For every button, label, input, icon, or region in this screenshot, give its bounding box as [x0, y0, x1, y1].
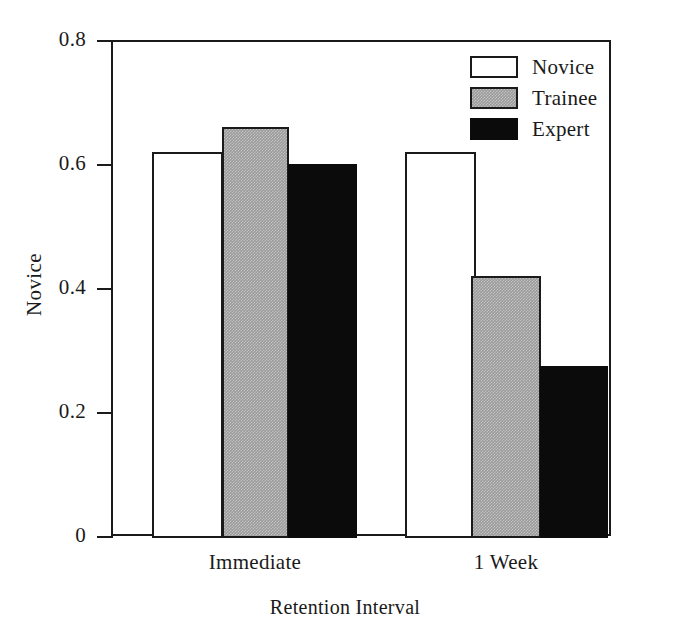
y-axis-label: Novice: [22, 215, 47, 355]
legend-item-trainee: Trainee: [470, 83, 620, 113]
y-tick-label-0.8: 0.8: [22, 29, 86, 50]
y-tick-label-0.6: 0.6: [22, 153, 86, 174]
gray-square-icon: [470, 87, 518, 109]
y-tick-mark-0.6: [97, 164, 113, 166]
x-tick-label-immediate: Immediate: [155, 550, 355, 575]
y-tick-label-0.2: 0.2: [22, 401, 86, 422]
y-tick-mark-0: [97, 536, 113, 538]
x-tick-label-1week: 1 Week: [406, 550, 606, 575]
bar-1week-novice: [405, 152, 476, 538]
y-tick-mark-0.2: [97, 412, 113, 414]
bar-immediate-expert: [288, 164, 357, 538]
bar-chart-figure: 0.8 0.6 0.4 0.2 0 Novice Immediate 1 Wee…: [0, 0, 690, 637]
x-axis-label: Retention Interval: [0, 596, 690, 619]
bar-1week-trainee: [471, 276, 541, 538]
legend-label-novice: Novice: [532, 55, 594, 80]
white-square-icon: [470, 56, 518, 78]
legend-item-novice: Novice: [470, 52, 620, 82]
legend-label-expert: Expert: [532, 117, 590, 142]
black-square-icon: [470, 118, 518, 140]
legend-label-trainee: Trainee: [532, 86, 597, 111]
legend-item-expert: Expert: [470, 114, 620, 144]
bar-1week-expert: [540, 366, 608, 538]
bar-immediate-trainee: [222, 127, 289, 538]
y-tick-mark-0.4: [97, 288, 113, 290]
bar-immediate-novice: [152, 152, 223, 538]
y-tick-mark-0.8: [97, 40, 113, 42]
y-tick-label-0: 0: [22, 525, 86, 546]
legend: Novice Trainee Expert: [470, 52, 620, 145]
